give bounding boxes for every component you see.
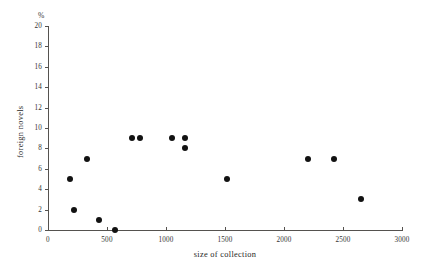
data-point bbox=[331, 156, 337, 162]
data-point bbox=[224, 176, 230, 182]
data-point bbox=[305, 156, 311, 162]
data-point bbox=[358, 196, 364, 202]
data-point bbox=[182, 135, 188, 141]
plot-area bbox=[0, 0, 435, 271]
data-point bbox=[67, 176, 73, 182]
data-point bbox=[112, 227, 118, 233]
scatter-chart: % foreign novels size of collection 0246… bbox=[0, 0, 435, 271]
data-point bbox=[137, 135, 143, 141]
data-point bbox=[169, 135, 175, 141]
data-point bbox=[129, 135, 135, 141]
data-point bbox=[84, 156, 90, 162]
data-point bbox=[96, 217, 102, 223]
data-point bbox=[71, 207, 77, 213]
data-point bbox=[182, 145, 188, 151]
